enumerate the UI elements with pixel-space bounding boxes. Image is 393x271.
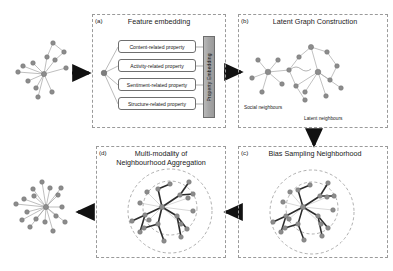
property-box-sentiment[interactable]: Sentiment-related property — [118, 78, 196, 91]
latent-neighbours-label: Latent neighbours — [304, 116, 342, 121]
property-embedding-bar-label: Property Embedding — [207, 53, 212, 101]
social-neighbours-label: Social neighbours — [244, 105, 282, 110]
panel-c-title: Bias Sampling Neighborhood — [246, 149, 384, 158]
input-graph-top — [16, 41, 69, 100]
panel-b — [238, 14, 388, 128]
property-embedding-bar: Property Embedding — [203, 36, 215, 118]
property-box-content[interactable]: Content-related property — [118, 40, 196, 53]
figure-canvas: (a) (b) (c) (d) Feature embedding Latent… — [0, 0, 393, 271]
panel-d-title-line1: Multi-modality of — [96, 149, 226, 158]
output-graph-bottom — [14, 180, 68, 234]
panel-c — [238, 146, 388, 258]
panel-d-title-line2: Neighbourhood Aggregation — [96, 158, 226, 167]
panel-b-title: Latent Graph Construction — [246, 17, 384, 26]
panel-a-title: Feature embedding — [92, 17, 226, 26]
property-box-activity[interactable]: Activity-related property — [118, 59, 196, 72]
property-box-structure[interactable]: Structure-related property — [118, 97, 196, 110]
